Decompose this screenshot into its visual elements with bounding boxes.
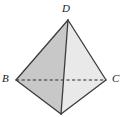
vertex-label-d: D (62, 3, 70, 14)
vertex-label-b: B (2, 73, 9, 84)
vertex-label-c: C (112, 73, 119, 84)
tetrahedron-figure: D B C (0, 0, 124, 117)
tetrahedron-diagram (0, 0, 124, 117)
face-dac-right (61, 20, 106, 114)
